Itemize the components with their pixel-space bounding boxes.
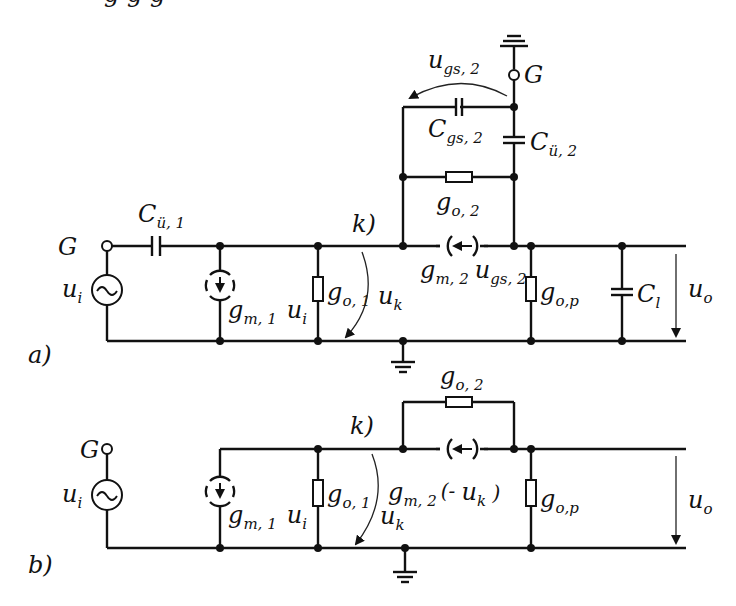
conductance-p-icon xyxy=(526,277,536,301)
conductance-p-icon-b xyxy=(526,480,536,506)
svg-text:Cl: Cl xyxy=(637,280,660,312)
coupling-capacitor-1 xyxy=(152,236,160,256)
svg-text:Cü, 1: Cü, 1 xyxy=(138,200,185,232)
svg-text:go, 1: go, 1 xyxy=(327,480,371,512)
svg-text:Cgs, 2: Cgs, 2 xyxy=(428,115,483,147)
conductance-2-icon-b xyxy=(446,397,472,407)
coupling-capacitor-2 xyxy=(503,137,525,143)
input-terminal-icon xyxy=(102,241,112,251)
ground-icon-top xyxy=(500,36,528,46)
svg-text:gm, 1ui: gm, 1ui xyxy=(228,501,307,533)
ac-source-icon xyxy=(92,275,122,305)
svg-text:ugs, 2: ugs, 2 xyxy=(428,46,480,78)
cut-text: g g g xyxy=(104,0,165,8)
panel-a: G ui Cü, 1 gm, 1ui go, 1 k) uk xyxy=(28,36,713,372)
panel-b: G ui gm, 1ui go, 1 k) uk xyxy=(28,362,713,582)
gate-capacitor xyxy=(456,98,462,116)
svg-text:go, 2: go, 2 xyxy=(440,362,484,394)
svg-text:gm, 1ui: gm, 1ui xyxy=(228,296,307,328)
svg-text:gm, 2(- uk ): gm, 2(- uk ) xyxy=(388,478,500,510)
svg-text:uk: uk xyxy=(378,282,403,314)
svg-text:uk: uk xyxy=(380,502,405,534)
svg-text:ui: ui xyxy=(62,275,82,307)
label-g-in: G xyxy=(58,233,77,261)
svg-text:go,p: go,p xyxy=(540,278,579,310)
ground-icon-b xyxy=(393,572,417,582)
ground-icon xyxy=(391,362,415,372)
panel-b-label: b) xyxy=(28,551,53,579)
svg-text:ui: ui xyxy=(62,480,82,512)
svg-text:go, 2: go, 2 xyxy=(436,188,480,220)
circuit-diagram: g g g G ui Cü, 1 xyxy=(0,0,736,606)
svg-text:go,p: go,p xyxy=(540,485,579,517)
conductance-1-icon xyxy=(313,277,323,301)
gate-voltage-arrow xyxy=(410,83,507,98)
input-terminal-icon-b xyxy=(102,444,112,454)
gate-terminal-icon xyxy=(509,70,519,80)
svg-text:gm, 2ugs, 2: gm, 2ugs, 2 xyxy=(420,256,527,288)
conductance-2-icon xyxy=(446,172,472,182)
conductance-1-icon-b xyxy=(313,480,323,506)
svg-text:k): k) xyxy=(350,412,374,440)
ac-source-icon-b xyxy=(92,480,122,510)
panel-a-label: a) xyxy=(28,341,52,369)
svg-text:uo: uo xyxy=(688,275,713,307)
svg-text:go, 1: go, 1 xyxy=(327,278,371,310)
svg-text:k): k) xyxy=(352,210,376,238)
svg-text:uo: uo xyxy=(688,486,713,518)
svg-text:G: G xyxy=(80,436,99,464)
svg-text:G: G xyxy=(524,61,543,89)
svg-text:Cü, 2: Cü, 2 xyxy=(530,128,577,160)
load-capacitor xyxy=(611,289,633,295)
